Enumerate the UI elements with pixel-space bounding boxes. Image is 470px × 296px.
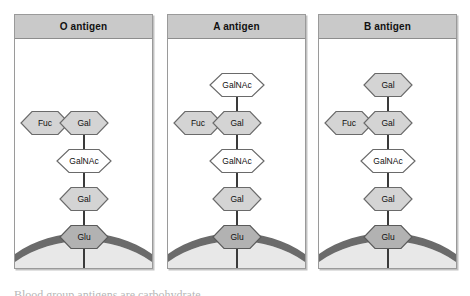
panel-body-b: Gal Fuc Gal GalNAc Gal: [319, 39, 456, 269]
panel-a-antigen: A antigen GalNAc: [167, 14, 306, 269]
sugar-gal-1: Gal: [212, 111, 262, 136]
sugar-label: Gal: [77, 119, 90, 128]
sugar-label: Gal: [381, 81, 394, 90]
glycan-chain-a: GalNAc Fuc Gal GalNAc Gal: [168, 39, 305, 269]
panel-header-b: B antigen: [319, 15, 456, 39]
sugar-label: GalNAc: [222, 81, 251, 90]
link-line: [236, 249, 238, 269]
sugar-label: Gal: [381, 119, 394, 128]
panel-body-o: Fuc Gal GalNAc Gal Glu: [15, 39, 152, 269]
sugar-gal-1: Gal: [59, 111, 109, 136]
sugar-label: Gal: [230, 119, 243, 128]
blood-group-antigen-figure: O antigen Fuc: [0, 0, 470, 296]
link-line: [83, 249, 85, 269]
sugar-glu: Glu: [59, 225, 109, 250]
sugar-gal-2: Gal: [363, 187, 413, 212]
sugar-galnac-top: GalNAc: [209, 73, 265, 98]
glycan-chain-o: Fuc Gal GalNAc Gal Glu: [15, 39, 152, 269]
sugar-label: Gal: [381, 195, 394, 204]
sugar-label: Gal: [77, 195, 90, 204]
panel-o-antigen: O antigen Fuc: [14, 14, 153, 269]
panel-b-antigen: B antigen Gal: [318, 14, 457, 269]
sugar-label: Glu: [77, 233, 90, 242]
sugar-label: Fuc: [191, 119, 205, 128]
sugar-galnac-1: GalNAc: [209, 149, 265, 174]
sugar-label: Gal: [230, 195, 243, 204]
sugar-gal-2: Gal: [59, 187, 109, 212]
sugar-label: Fuc: [342, 119, 356, 128]
sugar-label: Fuc: [38, 119, 52, 128]
figure-caption-partial: Blood group antigens are carbohydrate: [14, 288, 314, 296]
panel-body-a: GalNAc Fuc Gal GalNAc Gal: [168, 39, 305, 269]
glycan-chain-b: Gal Fuc Gal GalNAc Gal: [319, 39, 456, 269]
sugar-label: GalNAc: [69, 157, 98, 166]
sugar-gal-1: Gal: [363, 111, 413, 136]
sugar-label: GalNAc: [222, 157, 251, 166]
panel-title-b: B antigen: [364, 21, 411, 32]
panel-header-o: O antigen: [15, 15, 152, 39]
sugar-label: Glu: [381, 233, 394, 242]
sugar-label: GalNAc: [373, 157, 402, 166]
sugar-glu: Glu: [363, 225, 413, 250]
link-line: [387, 249, 389, 269]
sugar-gal-2: Gal: [212, 187, 262, 212]
panel-title-a: A antigen: [213, 21, 260, 32]
panel-header-a: A antigen: [168, 15, 305, 39]
sugar-galnac-1: GalNAc: [56, 149, 112, 174]
panel-title-o: O antigen: [60, 21, 107, 32]
sugar-label: Glu: [230, 233, 243, 242]
sugar-gal-top: Gal: [363, 73, 413, 98]
sugar-glu: Glu: [212, 225, 262, 250]
sugar-galnac-1: GalNAc: [360, 149, 416, 174]
